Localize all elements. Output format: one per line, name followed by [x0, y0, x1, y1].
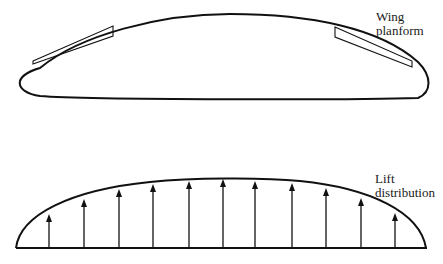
lift-label-line1: Lift	[375, 172, 435, 186]
arrow-head-icon	[81, 199, 87, 207]
arrow-head-icon	[358, 198, 364, 206]
arrow-head-icon	[392, 213, 398, 221]
arrow-head-icon	[323, 188, 329, 196]
lift-curve	[16, 178, 426, 248]
arrow-head-icon	[116, 189, 122, 197]
lift-distribution-diagram	[0, 0, 443, 264]
arrow-head-icon	[252, 181, 258, 189]
lift-distribution-label: Lift distribution	[375, 172, 435, 200]
arrow-head-icon	[150, 184, 156, 192]
arrow-head-icon	[186, 181, 192, 189]
arrow-head-icon	[220, 179, 226, 187]
lift-label-line2: distribution	[375, 186, 435, 200]
arrow-head-icon	[46, 214, 52, 222]
arrow-head-icon	[289, 183, 295, 191]
